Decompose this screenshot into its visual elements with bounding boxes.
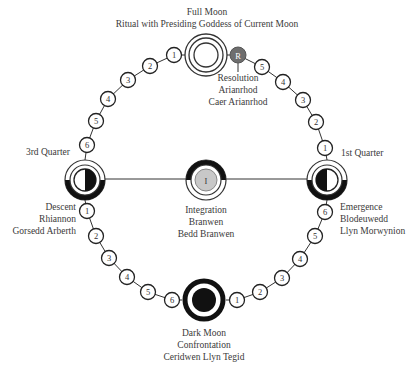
first-quarter-phase: Emergence (340, 201, 414, 213)
integration-phase: Integration (166, 204, 246, 216)
third-quarter-title: 3rd Quarter (0, 146, 70, 158)
svg-text:3: 3 (126, 75, 130, 85)
third-quarter-goddess: Rhiannon (0, 213, 76, 225)
resolution-place: Caer Arianrhod (198, 96, 278, 108)
steps-bottom-left-labels: 1 2 3 4 5 6 (85, 206, 174, 305)
svg-text:5: 5 (260, 62, 264, 72)
svg-text:5: 5 (313, 231, 317, 241)
dark-moon-goddess-place: Ceridwen Llyn Tegid (144, 351, 264, 363)
steps-bottom-right-labels: 6 5 4 3 2 1 (235, 207, 327, 305)
first-quarter-label: Emergence Blodeuwedd Llyn Morwynion (340, 201, 414, 237)
svg-text:3: 3 (107, 253, 111, 263)
svg-text:1: 1 (85, 206, 89, 216)
steps-top-left (80, 48, 182, 153)
resolution-goddess: Arianrhod (198, 84, 278, 96)
svg-text:R: R (235, 51, 241, 61)
third-quarter-place: Gorsedd Arberth (0, 225, 76, 237)
svg-text:2: 2 (148, 61, 152, 71)
svg-text:1: 1 (235, 295, 239, 305)
svg-text:3: 3 (280, 273, 284, 283)
integration-node: I (186, 160, 226, 200)
full-moon-title: Full Moon (107, 6, 307, 18)
svg-text:2: 2 (94, 231, 98, 241)
integration-label: Integration Branwen Bedd Branwen (166, 204, 246, 240)
first-quarter-title: 1st Quarter (341, 147, 411, 159)
svg-text:1: 1 (172, 50, 176, 60)
full-moon-icon (185, 34, 227, 76)
dark-moon-icon (185, 281, 223, 319)
resolution-node: R (230, 47, 246, 63)
resolution-label: Resolution Arianrhod Caer Arianrhod (198, 72, 278, 108)
svg-text:3: 3 (301, 95, 305, 105)
svg-text:I: I (205, 176, 208, 186)
third-quarter-moon-icon (65, 160, 105, 200)
svg-text:1: 1 (323, 143, 327, 153)
svg-text:2: 2 (258, 287, 262, 297)
dark-moon-title: Dark Moon (144, 327, 264, 339)
integration-place: Bedd Branwen (166, 228, 246, 240)
svg-text:5: 5 (146, 287, 150, 297)
first-quarter-goddess: Blodeuwedd (340, 213, 414, 225)
dark-moon-phase: Confrontation (144, 339, 264, 351)
svg-text:2: 2 (314, 117, 318, 127)
steps-top-left-labels: 1 2 3 4 5 6 (85, 50, 176, 150)
full-moon-subtitle: Ritual with Presiding Goddess of Current… (107, 18, 307, 30)
integration-goddess: Branwen (166, 216, 246, 228)
svg-text:5: 5 (94, 116, 98, 126)
svg-text:6: 6 (323, 207, 327, 217)
first-quarter-place: Llyn Morwynion (340, 225, 414, 237)
svg-text:6: 6 (170, 295, 174, 305)
first-quarter-moon-icon (307, 160, 347, 200)
third-quarter-phase: Descent (0, 201, 76, 213)
moon-cycle-diagram: R I 1 2 3 4 (0, 0, 414, 375)
third-quarter-label: Descent Rhiannon Gorsedd Arberth (0, 201, 76, 237)
steps-bottom-left (80, 204, 180, 308)
svg-text:6: 6 (85, 140, 89, 150)
full-moon-label: Full Moon Ritual with Presiding Goddess … (107, 6, 307, 30)
dark-moon-label: Dark Moon Confrontation Ceridwen Llyn Te… (144, 327, 264, 363)
resolution-phase: Resolution (198, 72, 278, 84)
